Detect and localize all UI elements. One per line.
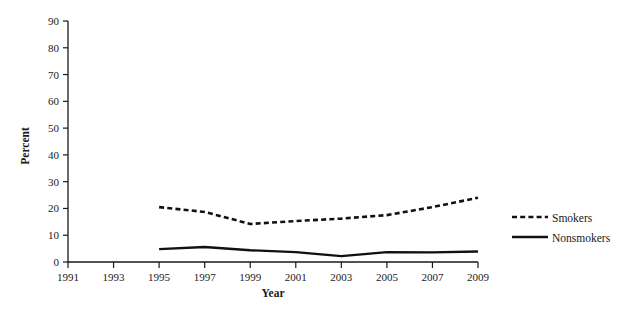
chart-legend: SmokersNonsmokers [512, 212, 611, 244]
legend-label-smokers: Smokers [552, 212, 593, 224]
legend-label-nonsmokers: Nonsmokers [552, 232, 611, 244]
x-tick-label: 2001 [285, 271, 307, 283]
y-tick-label: 40 [48, 149, 60, 161]
y-tick-label: 20 [48, 202, 60, 214]
x-tick-label: 1991 [57, 271, 79, 283]
x-tick-label: 1999 [239, 271, 262, 283]
y-tick-label: 50 [48, 122, 60, 134]
y-axis-title: Percent [19, 127, 31, 165]
x-tick-label: 2003 [330, 271, 353, 283]
x-tick-label: 2007 [421, 271, 444, 283]
y-axis: 0102030405060708090 [48, 15, 68, 268]
y-tick-label: 10 [48, 229, 60, 241]
x-axis: 1991199319951997199920012003200520072009 [57, 262, 490, 283]
y-tick-label: 0 [54, 256, 60, 268]
y-tick-label: 30 [48, 176, 60, 188]
x-tick-label: 2009 [467, 271, 490, 283]
x-axis-title: Year [262, 287, 285, 299]
y-tick-label: 60 [48, 95, 60, 107]
x-tick-label: 1993 [103, 271, 126, 283]
x-tick-label: 2005 [376, 271, 399, 283]
x-tick-label: 1995 [148, 271, 171, 283]
y-tick-label: 90 [48, 15, 60, 27]
data-series-group [159, 198, 478, 256]
series-line-nonsmokers [159, 247, 478, 256]
line-chart: 0102030405060708090 19911993199519971999… [0, 0, 633, 315]
series-line-smokers [159, 198, 478, 224]
chart-canvas: 0102030405060708090 19911993199519971999… [0, 0, 633, 315]
y-tick-label: 80 [48, 42, 60, 54]
y-tick-label: 70 [48, 69, 60, 81]
x-tick-label: 1997 [194, 271, 217, 283]
